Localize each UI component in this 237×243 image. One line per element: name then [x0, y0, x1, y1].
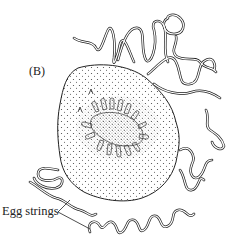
callout-lines [58, 200, 90, 229]
egg-strings-label: Egg strings [2, 204, 59, 219]
panel-label: (B) [29, 64, 45, 79]
